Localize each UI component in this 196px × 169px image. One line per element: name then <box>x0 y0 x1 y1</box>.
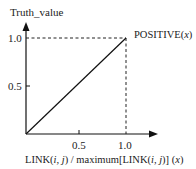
x-tick-label-05: 0.5 <box>72 139 86 151</box>
chart: Truth_value 1.0 0.5 0.5 1.0 POSITIVE(x) … <box>0 0 196 169</box>
y-axis-arrow-icon <box>23 22 30 31</box>
x-axis-label: LINK(i, j) / maximum[LINK(i, j)] (x) <box>25 154 184 166</box>
x-axis-arrow-icon <box>149 131 158 138</box>
series-label: POSITIVE(x) <box>134 29 193 41</box>
y-axis-label: Truth_value <box>10 6 63 18</box>
series-positive-line <box>26 38 126 134</box>
y-tick-label-05: 0.5 <box>8 80 22 92</box>
x-tick-label-1: 1.0 <box>118 139 132 151</box>
y-tick-label-1: 1.0 <box>8 32 22 44</box>
